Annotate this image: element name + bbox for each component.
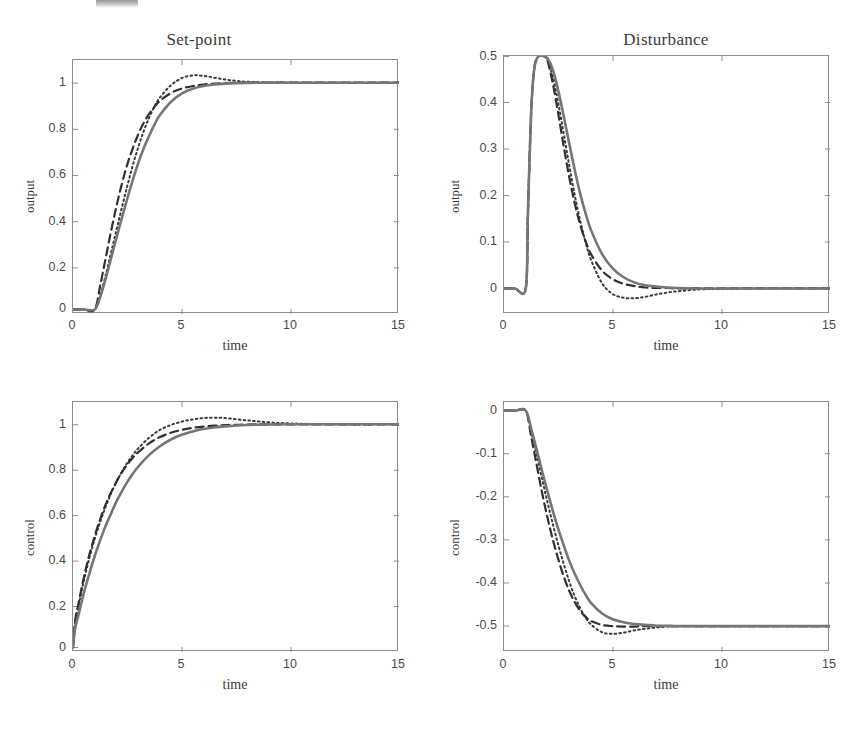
xtick-disturbance-output-0: 0	[500, 318, 507, 332]
xtick-setpoint-output-5: 5	[178, 318, 185, 332]
ytick-setpoint-control-08: 0.8	[28, 462, 66, 476]
panel-title-setpoint: Set-point	[0, 30, 398, 50]
xtick-setpoint-output-10: 10	[283, 318, 297, 332]
ytick-disturbance-control-02: -0.2	[447, 489, 497, 503]
xtick-setpoint-control-15: 15	[391, 657, 405, 671]
axes-setpoint-control	[72, 401, 398, 651]
xlabel-setpoint-output: time	[223, 338, 248, 354]
ytick-disturbance-output-01: 0.1	[453, 234, 497, 248]
ticks-inner	[504, 402, 830, 652]
ytick-disturbance-output-0: 0	[453, 281, 497, 295]
ylabel-setpoint-control: control	[22, 519, 38, 556]
curves-setpoint-control	[73, 418, 399, 648]
curve-disturbance-output-solid	[504, 56, 830, 294]
ytick-disturbance-output-05: 0.5	[453, 49, 497, 63]
ytick-disturbance-output-04: 0.4	[453, 95, 497, 109]
curve-setpoint-output-dashed	[73, 83, 399, 312]
curve-setpoint-control-dashed	[73, 424, 399, 647]
curve-disturbance-control-solid	[504, 409, 830, 626]
ylabel-disturbance-control: control	[447, 519, 463, 556]
ytick-disturbance-control-0: 0	[447, 403, 497, 417]
ticks-inner	[73, 402, 399, 652]
cropped-text-artifact	[96, 0, 138, 8]
ytick-disturbance-control-05: -0.5	[447, 618, 497, 632]
curve-setpoint-output-dotted	[73, 75, 399, 310]
plot-area-setpoint-output	[73, 60, 399, 314]
plot-area-setpoint-control	[73, 402, 399, 652]
ytick-setpoint-output-0: 0	[28, 301, 66, 315]
panel-setpoint-output: Set-point	[0, 18, 432, 370]
ytick-disturbance-control-01: -0.1	[447, 446, 497, 460]
axes-disturbance-output	[503, 55, 829, 313]
ytick-disturbance-output-03: 0.3	[453, 141, 497, 155]
xlabel-setpoint-control: time	[223, 677, 248, 693]
axes-disturbance-control	[503, 401, 829, 651]
curves-disturbance-control	[504, 409, 830, 634]
xtick-setpoint-output-15: 15	[391, 318, 405, 332]
ytick-setpoint-control-1: 1	[28, 417, 66, 431]
curve-disturbance-output-dotted	[504, 56, 830, 298]
ytick-setpoint-output-04: 0.4	[28, 214, 66, 228]
figure-canvas: Set-point	[0, 0, 863, 729]
ytick-setpoint-control-0: 0	[28, 640, 66, 654]
axes-setpoint-output	[72, 59, 398, 313]
ytick-setpoint-output-08: 0.8	[28, 121, 66, 135]
curve-disturbance-control-dashed	[504, 409, 830, 627]
plot-area-disturbance-control	[504, 402, 830, 652]
curve-setpoint-control-dotted	[73, 418, 399, 648]
xtick-disturbance-output-15: 15	[822, 318, 836, 332]
xtick-disturbance-control-5: 5	[609, 657, 616, 671]
curve-disturbance-output-dashed	[504, 56, 830, 294]
curve-disturbance-control-dotted	[504, 409, 830, 634]
panel-setpoint-control: 1 0.8 0.6 0.4 0.2 0 0 5 10 15 time contr…	[0, 378, 432, 729]
plot-area-disturbance-output	[504, 56, 830, 314]
xtick-disturbance-control-10: 10	[714, 657, 728, 671]
xtick-setpoint-control-5: 5	[178, 657, 185, 671]
xlabel-disturbance-output: time	[654, 338, 679, 354]
xtick-disturbance-control-15: 15	[822, 657, 836, 671]
curves-setpoint-output	[73, 75, 399, 311]
xlabel-disturbance-control: time	[654, 677, 679, 693]
panel-disturbance-control: 0 -0.1 -0.2 -0.3 -0.4 -0.5 0 5 10 15 tim…	[431, 378, 863, 729]
ylabel-setpoint-output: output	[22, 180, 38, 213]
ylabel-disturbance-output: output	[447, 180, 463, 213]
panel-title-disturbance: Disturbance	[503, 30, 829, 50]
xtick-setpoint-control-10: 10	[283, 657, 297, 671]
panel-disturbance-output: Disturbance	[431, 18, 863, 370]
xtick-setpoint-control-0: 0	[69, 657, 76, 671]
xtick-disturbance-output-5: 5	[609, 318, 616, 332]
xtick-setpoint-output-0: 0	[69, 318, 76, 332]
curves-disturbance-output	[504, 56, 830, 298]
xtick-disturbance-control-0: 0	[500, 657, 507, 671]
curve-setpoint-output-solid	[73, 83, 399, 311]
ytick-setpoint-control-02: 0.2	[28, 599, 66, 613]
curve-setpoint-control-solid	[73, 424, 399, 647]
ytick-setpoint-output-1: 1	[28, 75, 66, 89]
ytick-disturbance-control-04: -0.4	[447, 575, 497, 589]
ticks-inner	[504, 56, 830, 314]
ytick-setpoint-output-02: 0.2	[28, 260, 66, 274]
xtick-disturbance-output-10: 10	[714, 318, 728, 332]
